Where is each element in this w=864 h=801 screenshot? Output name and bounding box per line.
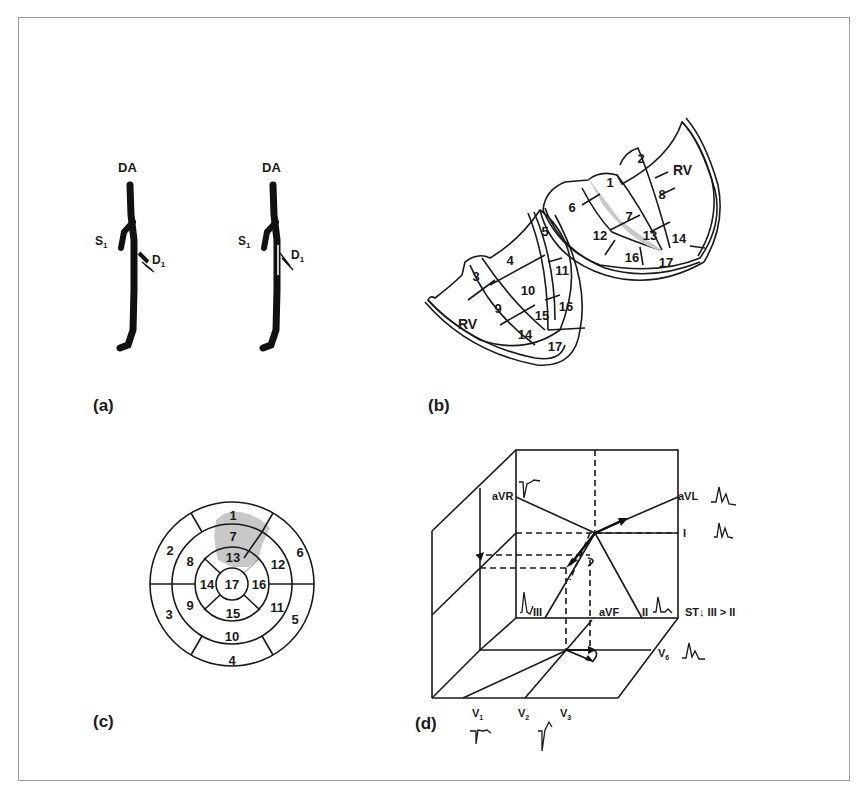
lad-trunk-right: [263, 185, 277, 348]
label-rv-upper: RV: [673, 162, 693, 178]
lead-v2: V2: [518, 707, 529, 721]
seg-c-12: 12: [271, 557, 285, 572]
seg-b-6: 6: [568, 200, 575, 215]
seg-b-9: 9: [494, 301, 501, 316]
seg-b-14-lower: 14: [518, 327, 533, 342]
panel-label-c: (c): [93, 712, 114, 731]
lad-trunk-left: [120, 185, 134, 348]
lead-i: I: [683, 527, 686, 539]
label-s1-left: S1: [95, 234, 108, 250]
ecg-waveform-iii: [520, 592, 533, 614]
seg-c-9: 9: [186, 598, 193, 613]
panel-label-d: (d): [415, 714, 437, 733]
ecg-waveform-v1: [470, 730, 491, 744]
seg-b-16-upper: 16: [625, 250, 639, 265]
ecg-waveform-avl: [711, 487, 736, 505]
ecg-waveform-v6: [682, 643, 705, 659]
panel-b: 1 2 6 7 8 12 13 14 16 17 RV 3 4 5 9 10: [425, 118, 720, 415]
seg-c-4: 4: [228, 653, 236, 668]
seg-b-16-lower: 16: [559, 299, 573, 314]
heart-slice-lower: 3 4 5 9 10 11 14 15 16 17 RV: [425, 210, 585, 365]
figure-canvas: DA S1 D1 DA S1 D1 (a): [0, 0, 864, 801]
lead-v3: V3: [560, 707, 571, 721]
seg-c-15: 15: [226, 606, 240, 621]
seg-c-16: 16: [252, 577, 266, 592]
seg-c-11: 11: [270, 600, 284, 615]
ecg-waveform-i: [714, 523, 733, 538]
seg-b-5: 5: [541, 224, 548, 239]
st-depression-annotation: ST↓ III > II: [685, 606, 735, 618]
seg-b-13: 13: [643, 228, 657, 243]
bullseye-plot: 1 6 5 4 3 2 7 12 11 10 9 8 13 16 15 14 1…: [150, 502, 314, 668]
seg-b-7: 7: [625, 209, 632, 224]
lead-avr: aVR: [492, 490, 513, 502]
label-s1-right: S1: [238, 234, 251, 250]
lead-avl: aVL: [678, 490, 698, 502]
panel-label-b: (b): [428, 396, 450, 415]
seg-b-4: 4: [506, 253, 514, 268]
seg-b-12: 12: [593, 228, 607, 243]
seg-c-7: 7: [229, 529, 236, 544]
seg-c-2: 2: [166, 543, 173, 558]
seg-b-11: 11: [555, 263, 569, 278]
seg-b-15: 15: [535, 308, 549, 323]
seg-c-5: 5: [291, 612, 298, 627]
artery-diagram-right: DA S1 D1: [238, 160, 305, 348]
seg-b-8: 8: [658, 187, 665, 202]
seg-c-10: 10: [225, 629, 239, 644]
seg-c-6: 6: [296, 545, 303, 560]
artery-diagram-left: DA S1 D1: [95, 160, 166, 348]
seg-b-10: 10: [521, 283, 535, 298]
label-rv-lower: RV: [458, 316, 478, 332]
vector-cube: [432, 450, 678, 698]
seg-b-14-upper: 14: [672, 231, 687, 246]
seg-b-2: 2: [637, 151, 644, 166]
lead-iii: III: [533, 606, 542, 618]
panel-a: DA S1 D1 DA S1 D1 (a): [93, 160, 305, 415]
highlight-segments-1-7-13: [214, 512, 270, 567]
label-d1-right: D1: [291, 248, 305, 264]
seg-c-13: 13: [226, 550, 240, 565]
seg-b-3: 3: [472, 269, 479, 284]
lead-ii: II: [642, 606, 648, 618]
label-d1-left: D1: [152, 253, 166, 269]
label-da-left: DA: [118, 160, 137, 175]
label-da-right: DA: [262, 160, 281, 175]
heart-slice-upper: 1 2 6 7 8 12 13 14 16 17 RV: [540, 118, 720, 280]
panel-c: 1 6 5 4 3 2 7 12 11 10 9 8 13 16 15 14 1…: [93, 502, 314, 731]
lead-avf: aVF: [599, 606, 619, 618]
seg-b-1: 1: [606, 175, 613, 190]
diagonal-branch-left: [139, 253, 148, 262]
panel-d: aVR aVL I III aVF II ST↓ III > II V6 V1 …: [415, 450, 736, 751]
ecg-waveform-v2-v3: [538, 722, 552, 751]
seg-c-8: 8: [186, 554, 193, 569]
panel-label-a: (a): [93, 396, 114, 415]
lead-v6: V6: [658, 647, 669, 661]
seg-c-17: 17: [225, 577, 239, 592]
ecg-waveform-avr: [519, 480, 540, 498]
seg-c-1: 1: [229, 508, 236, 523]
seg-c-3: 3: [165, 607, 172, 622]
lead-v1: V1: [472, 707, 483, 721]
ecg-waveform-ii: [653, 597, 672, 613]
seg-c-14: 14: [200, 577, 215, 592]
seg-b-17-lower: 17: [548, 339, 562, 354]
seg-b-17-upper: 17: [659, 255, 673, 270]
